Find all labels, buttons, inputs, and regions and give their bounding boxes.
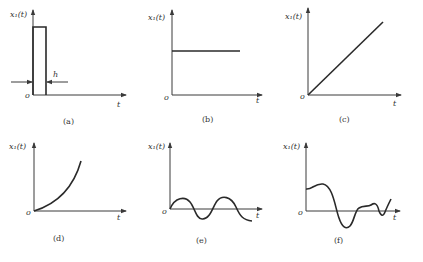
y-axis-label: x₁(t) — [148, 13, 165, 22]
panel-f: x₁(t) o t (f) — [283, 142, 400, 245]
panel-caption: (a) — [63, 117, 74, 126]
panel-caption: (d) — [53, 234, 64, 243]
x-axis-label: t — [393, 99, 397, 108]
x-axis-label: t — [117, 213, 121, 222]
ramp-curve — [308, 22, 383, 95]
panel-b: x₁(t) o t (b) — [148, 10, 262, 124]
x-axis-label: t — [117, 100, 121, 109]
origin-label: o — [25, 91, 30, 100]
origin-label: o — [298, 208, 303, 217]
y-axis-label: x₁(t) — [283, 142, 300, 151]
origin-label: o — [162, 207, 167, 216]
panel-caption: (b) — [202, 115, 213, 124]
panel-caption: (f) — [334, 236, 343, 245]
x-axis-label: t — [256, 211, 260, 220]
x-axis-label: t — [256, 96, 260, 105]
panel-d: x₁(t) o t (d) — [9, 142, 126, 243]
y-axis-label: x₁(t) — [9, 142, 26, 151]
panel-c: x₁(t) o t (c) — [285, 8, 401, 124]
x-axis-label: t — [393, 213, 397, 222]
y-axis-label: x₁(t) — [10, 10, 27, 19]
panel-a: h x₁(t) o t (a) — [10, 10, 126, 126]
panel-caption: (c) — [339, 115, 350, 124]
origin-label: o — [300, 92, 305, 101]
panel-caption: (e) — [196, 236, 207, 245]
pulse-curve — [33, 27, 46, 95]
parabolic-curve — [34, 161, 81, 211]
origin-label: o — [164, 93, 169, 102]
random-signal-curve — [306, 184, 391, 228]
input-signal-figure: h x₁(t) o t (a) x₁(t) o t (b) x₁(t) o t … — [0, 0, 423, 262]
y-axis-label: x₁(t) — [148, 142, 165, 151]
panel-e: x₁(t) o t (e) — [148, 142, 262, 245]
origin-label: o — [26, 208, 31, 217]
width-label: h — [53, 70, 58, 79]
y-axis-label: x₁(t) — [285, 12, 302, 21]
